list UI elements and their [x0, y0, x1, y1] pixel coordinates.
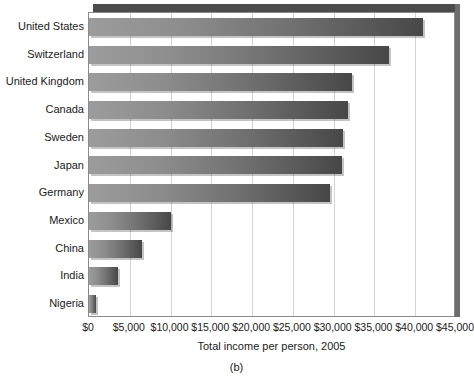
y-axis-label-japan: Japan	[0, 159, 84, 171]
y-axis-label-united-states: United States	[0, 20, 84, 32]
y-axis-label-switzerland: Switzerland	[0, 48, 84, 60]
x-axis-tick-label: $30,000	[314, 320, 352, 334]
y-axis-label-group: United StatesSwitzerlandUnited KingdomCa…	[0, 12, 84, 317]
x-axis-tick-label: $40,000	[395, 320, 433, 334]
x-axis-tick-label: $35,000	[354, 320, 392, 334]
bar	[89, 240, 142, 258]
bar	[89, 295, 96, 313]
plot-area	[88, 12, 455, 317]
x-axis-tick-label: $45,000	[436, 320, 474, 334]
y-axis-label-canada: Canada	[0, 103, 84, 115]
x-axis-tick-label: $10,000	[151, 320, 189, 334]
x-axis-tick-group: $0$5,000$10,000$15,000$20,000$25,000$30,…	[0, 320, 473, 336]
x-axis-tick-label: $15,000	[191, 320, 229, 334]
bar	[89, 267, 118, 285]
x-axis-tick-label: $0	[82, 320, 94, 334]
bar	[89, 212, 171, 230]
y-axis-label-united-kingdom: United Kingdom	[0, 75, 84, 87]
y-axis-label-mexico: Mexico	[0, 214, 84, 226]
bar	[89, 18, 423, 36]
y-axis-label-india: India	[0, 269, 84, 281]
plot-frame-right-shadow	[455, 4, 460, 317]
x-axis-title: Total income per person, 2005	[88, 339, 455, 353]
bar	[89, 101, 348, 119]
bar	[89, 46, 389, 64]
bar	[89, 129, 343, 147]
y-axis-label-nigeria: Nigeria	[0, 297, 84, 309]
bar	[89, 184, 330, 202]
figure-caption: (b)	[0, 360, 473, 374]
bar	[89, 156, 342, 174]
y-axis-label-germany: Germany	[0, 186, 84, 198]
bar-series	[89, 13, 454, 316]
plot-frame-top-shadow	[93, 4, 460, 12]
y-axis-label-sweden: Sweden	[0, 131, 84, 143]
x-axis-tick-label: $25,000	[273, 320, 311, 334]
bar	[89, 73, 352, 91]
y-axis-label-china: China	[0, 242, 84, 254]
x-axis-tick-label: $5,000	[113, 320, 145, 334]
x-axis-tick-label: $20,000	[232, 320, 270, 334]
